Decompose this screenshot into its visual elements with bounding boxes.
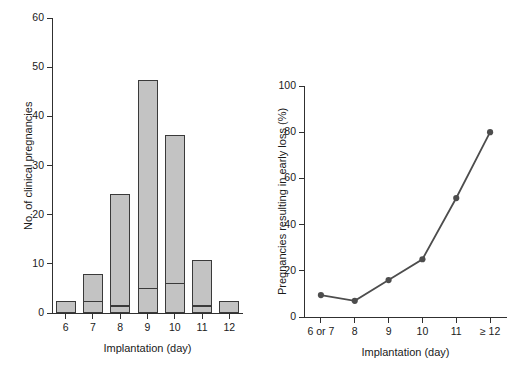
- data-point-marker: [453, 195, 459, 201]
- x-axis-title: Implantation (day): [52, 342, 243, 354]
- y-tick: [47, 313, 52, 314]
- bar-segment-divider: [139, 288, 157, 289]
- bar-plot-area: 01020304050606789101112Implantation (day…: [0, 0, 261, 382]
- data-point-marker: [419, 256, 425, 262]
- y-axis: [52, 18, 53, 313]
- data-point-marker: [487, 129, 493, 135]
- line-chart-panel: 0204060801006 or 7891011≥ 12Implantation…: [261, 0, 522, 382]
- bar: [110, 194, 130, 313]
- line-path: [321, 132, 490, 301]
- figure-root: 01020304050606789101112Implantation (day…: [0, 0, 522, 382]
- x-axis-title: Implantation (day): [304, 346, 507, 358]
- y-tick: [47, 116, 52, 117]
- bar-segment-divider: [166, 283, 184, 284]
- y-tick: [47, 18, 52, 19]
- bar: [165, 135, 185, 313]
- y-tick-label: 10: [12, 258, 44, 268]
- line-series: [261, 0, 522, 382]
- y-tick: [47, 67, 52, 68]
- y-tick: [47, 263, 52, 264]
- y-tick-label: 60: [12, 12, 44, 22]
- bar: [219, 301, 239, 313]
- x-tick: [147, 314, 148, 319]
- bar-chart-panel: 01020304050606789101112Implantation (day…: [0, 0, 261, 382]
- data-point-marker: [352, 298, 358, 304]
- bar-segment-divider: [84, 301, 102, 302]
- bar-segment-divider: [193, 305, 211, 306]
- x-tick: [65, 314, 66, 319]
- y-tick-label: 0: [12, 307, 44, 317]
- bar: [192, 260, 212, 313]
- x-tick-label: 12: [209, 322, 249, 333]
- x-tick: [174, 314, 175, 319]
- y-tick: [47, 165, 52, 166]
- y-axis-title: No. of clinical pregnancies: [22, 101, 34, 229]
- x-tick: [92, 314, 93, 319]
- x-tick: [229, 314, 230, 319]
- x-tick: [202, 314, 203, 319]
- y-tick-label: 50: [12, 61, 44, 71]
- bar: [56, 301, 76, 313]
- bar: [83, 274, 103, 313]
- x-tick: [120, 314, 121, 319]
- y-axis-title: Pregnancies resulting in early loss (%): [276, 108, 288, 295]
- line-plot-area: 0204060801006 or 7891011≥ 12Implantation…: [261, 0, 522, 382]
- bar: [138, 80, 158, 313]
- data-point-marker: [318, 292, 324, 298]
- y-tick: [47, 214, 52, 215]
- data-point-marker: [385, 277, 391, 283]
- bar-segment-divider: [111, 305, 129, 306]
